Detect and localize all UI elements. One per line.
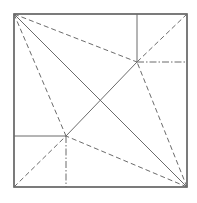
crease-pattern-diagram [0,0,197,203]
crease-ll-to-br [66,136,187,187]
crease-ur-to-ll [66,62,137,136]
crease-ur-to-tr [137,14,187,62]
crease-ll-to-bl [14,136,66,187]
crease-ur-to-tl [14,14,137,62]
crease-ll-to-tl [14,14,66,136]
crease-lines [14,14,187,187]
crease-ur-to-br [137,62,187,187]
